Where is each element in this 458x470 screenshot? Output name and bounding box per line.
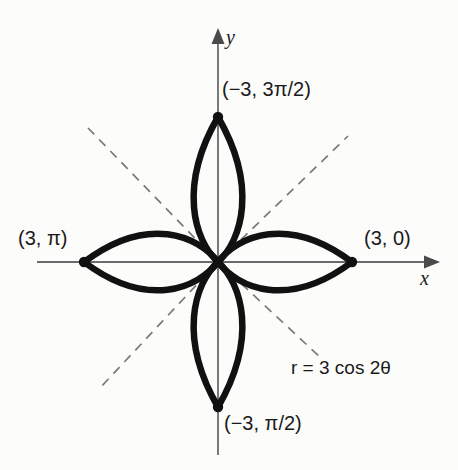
point-3-0	[347, 257, 357, 267]
point-label-bottom: (−3, π/2)	[224, 413, 302, 433]
polar-rose-figure: (−3, 3π/2) (3, π) (3, 0) (−3, π/2) r = 3…	[0, 0, 458, 470]
point-neg3-3pi2	[213, 112, 223, 122]
point-label-right: (3, 0)	[364, 228, 411, 248]
point-label-top: (−3, 3π/2)	[222, 79, 311, 99]
point-3-pi	[79, 257, 89, 267]
equation-label: r = 3 cos 2θ	[291, 358, 391, 377]
x-axis-label: x	[420, 268, 429, 288]
y-axis-label: y	[226, 27, 235, 47]
point-neg3-pi2	[213, 402, 223, 412]
x-axis-group	[37, 256, 440, 269]
point-label-left: (3, π)	[18, 228, 67, 248]
y-axis-arrowhead	[212, 28, 225, 44]
